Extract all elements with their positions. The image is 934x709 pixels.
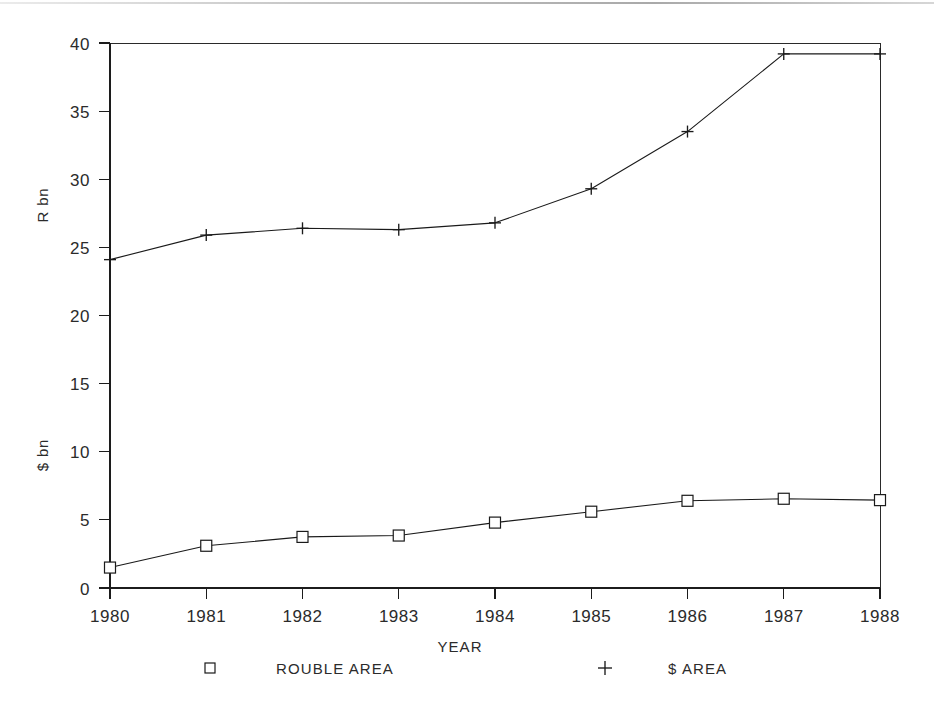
series-layer [104,48,886,573]
plus-marker-icon [598,661,612,675]
x-tick-labels: 1980 1981 1982 1983 1984 1985 1986 1987 … [90,607,900,626]
y-axis-ticks [99,43,110,588]
legend-label: $ AREA [668,660,727,677]
data-point-marker [490,517,501,528]
series-line [110,499,880,568]
data-point-marker [875,495,886,506]
y-tick-label: 30 [70,171,90,190]
legend-entry-rouble-area[interactable]: ROUBLE AREA [205,660,394,677]
data-point-marker [682,495,693,506]
x-tick-label: 1985 [571,607,611,626]
data-point-marker [297,531,308,542]
data-point-marker [200,229,212,241]
data-point-marker [393,224,405,236]
data-point-marker [586,506,597,517]
y-tick-label: 15 [70,375,90,394]
x-tick-label: 1983 [379,607,419,626]
y-tick-label: 40 [70,35,90,54]
square-marker-icon [205,663,215,673]
y-tick-label: 25 [70,239,90,258]
y-tick-label: 35 [70,103,90,122]
data-point-marker [778,493,789,504]
x-tick-label: 1980 [90,607,130,626]
data-point-marker [778,48,790,60]
data-point-marker [393,530,404,541]
data-point-marker [874,48,886,60]
chart-figure: 0 5 10 15 20 25 30 35 40 1980 1981 1982 [0,0,934,709]
y-tick-label: 20 [70,307,90,326]
x-tick-label: 1986 [668,607,708,626]
x-tick-label: 1987 [764,607,804,626]
legend-entry-dollar-area[interactable]: $ AREA [598,660,727,677]
series-area [104,48,886,266]
y-axis-title-lower: $ bn [34,439,51,471]
x-tick-label: 1988 [860,607,900,626]
data-point-marker [105,562,116,573]
series-rouble-area [105,493,886,573]
x-axis-ticks [110,588,880,599]
data-point-marker [297,222,309,234]
y-tick-label: 10 [70,443,90,462]
chart-legend: ROUBLE AREA $ AREA [205,660,727,677]
data-point-marker [201,540,212,551]
x-axis-title: YEAR [437,638,482,655]
y-tick-labels: 0 5 10 15 20 25 30 35 40 [70,35,90,599]
x-tick-label: 1982 [283,607,323,626]
legend-label: ROUBLE AREA [276,660,394,677]
x-tick-label: 1981 [186,607,226,626]
data-point-marker [489,217,501,229]
data-point-marker [585,183,597,195]
y-tick-label: 0 [80,580,90,599]
y-tick-label: 5 [80,511,90,530]
data-point-marker [682,126,694,138]
line-chart: 0 5 10 15 20 25 30 35 40 1980 1981 1982 [0,0,934,709]
y-axis-title-upper: R bn [34,188,51,223]
data-point-marker [104,254,116,266]
x-tick-label: 1984 [475,607,515,626]
